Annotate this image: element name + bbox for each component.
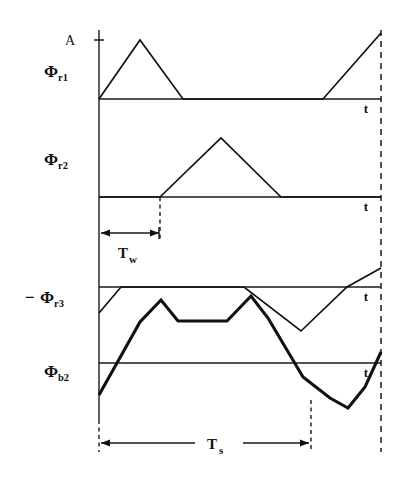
label-phi-b2-subscript: b2 — [58, 372, 69, 383]
time-label-phi-b2: t — [364, 365, 369, 380]
label-phi-r2-subscript: r2 — [58, 160, 68, 171]
tw-dimension — [101, 227, 159, 239]
label-phi-r1: Φ r1 — [44, 62, 68, 83]
label-phi-r1-subscript: r1 — [58, 72, 68, 83]
waveform-figure: A Φ r1 Φ r2 − Φ r3 Φ b2 t t t t T w — [0, 0, 406, 478]
tw-arrow-right — [150, 230, 159, 237]
label-phi-r3-symbol: Φ — [40, 288, 54, 307]
label-tw-subscript: w — [129, 253, 137, 265]
label-tw: T w — [118, 245, 137, 265]
label-phi-r3-subscript: r3 — [54, 298, 64, 309]
time-label-phi-r3: t — [364, 289, 369, 304]
ts-arrow-left — [101, 440, 110, 447]
label-phi-r2-symbol: Φ — [44, 150, 58, 169]
label-phi-r1-symbol: Φ — [44, 62, 58, 81]
trace-phi-b2 — [99, 296, 381, 408]
label-ts: T s — [207, 436, 224, 456]
ts-dimension — [101, 440, 309, 447]
label-tw-symbol: T — [118, 245, 128, 261]
waveform-canvas: A Φ r1 Φ r2 − Φ r3 Φ b2 t t t t T w — [0, 0, 406, 478]
label-ts-symbol: T — [207, 436, 217, 452]
label-phi-r3: − Φ r3 — [25, 288, 64, 309]
ts-arrow-right — [300, 440, 309, 447]
amplitude-label: A — [65, 33, 76, 48]
label-ts-subscript: s — [219, 444, 224, 456]
label-phi-r2: Φ r2 — [44, 150, 68, 171]
label-phi-b2-symbol: Φ — [44, 362, 58, 381]
trace-phi-r2 — [99, 138, 381, 197]
time-label-phi-r1: t — [364, 101, 369, 116]
time-label-phi-r2: t — [364, 199, 369, 214]
label-phi-r3-prefix: − — [25, 288, 35, 307]
label-phi-b2: Φ b2 — [44, 362, 69, 383]
tw-arrow-left — [101, 230, 110, 237]
trace-phi-r1 — [99, 33, 381, 99]
